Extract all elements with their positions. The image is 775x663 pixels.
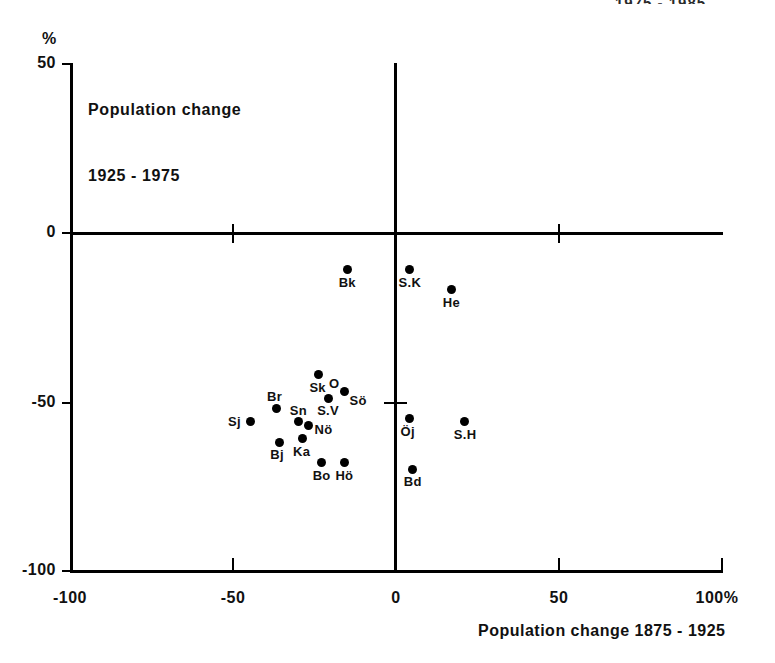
- data-point-label: Br: [267, 389, 282, 404]
- data-point-label: Bj: [270, 447, 284, 462]
- clipped-header-text: 1975 - 1985: [615, 0, 775, 4]
- data-point-marker: [460, 417, 469, 426]
- x-tick-50: [558, 558, 560, 571]
- x-tick-label-neg100: -100: [25, 589, 115, 607]
- scatter-plot-figure: 1975 - 1985 % 50 0 -50 -100 -100 -50 0 5…: [0, 0, 775, 663]
- data-point-marker: [340, 387, 349, 396]
- data-point-marker: [246, 417, 255, 426]
- data-point-label: S.K: [399, 275, 422, 290]
- data-point-marker: [408, 465, 417, 474]
- data-point-label: O: [329, 376, 339, 391]
- data-point-marker: [298, 434, 307, 443]
- data-point-label: Bd: [404, 474, 422, 489]
- y-tick-neg50-inner: [384, 402, 407, 404]
- data-point-label: Bo: [313, 468, 331, 483]
- y-tick-neg50: [62, 402, 71, 404]
- plot-title-line-2: 1925 - 1975: [88, 165, 241, 187]
- y-tick-label-0: 0: [0, 223, 56, 241]
- data-point-label: Sk: [309, 380, 326, 395]
- x-tick-label-100: 100%: [672, 589, 762, 607]
- data-point-label: Bk: [339, 275, 356, 290]
- data-point-marker: [340, 458, 349, 467]
- data-point-label: Nö: [315, 422, 333, 437]
- data-point-label: Sö: [349, 393, 366, 408]
- x-tick-label-0: 0: [351, 589, 441, 607]
- x-tick-100: [721, 558, 723, 571]
- y-axis-line: [70, 63, 73, 573]
- data-point-marker: [294, 417, 303, 426]
- data-point-marker: [324, 394, 333, 403]
- data-point-marker: [275, 438, 284, 447]
- x-tick-neg50: [232, 558, 234, 571]
- data-point-marker: [405, 265, 414, 274]
- zero-vertical-reference-line: [394, 63, 397, 573]
- data-point-label: Sj: [228, 414, 241, 429]
- y-tick-0: [62, 232, 71, 234]
- data-point-label: Ka: [293, 444, 310, 459]
- data-point-marker: [405, 414, 414, 423]
- y-tick-label-50: 50: [0, 54, 56, 72]
- data-point-label: He: [443, 295, 460, 310]
- data-point-label: Öj: [401, 424, 415, 439]
- y-tick-label-neg100: -100: [0, 561, 56, 579]
- x-tick-label-neg50: -50: [188, 589, 278, 607]
- data-point-marker: [317, 458, 326, 467]
- x-tick-label-50: 50: [514, 589, 604, 607]
- y-tick-neg100: [62, 570, 71, 572]
- y-tick-label-neg50: -50: [0, 393, 56, 411]
- data-point-marker: [272, 404, 281, 413]
- data-point-label: S.V: [317, 403, 339, 418]
- x-tick-0: [395, 558, 397, 571]
- y-tick-50: [62, 63, 71, 65]
- x-axis-title: Population change 1875 - 1925: [478, 622, 725, 640]
- plot-title: Population change 1925 - 1975: [88, 55, 241, 231]
- data-point-marker: [314, 370, 323, 379]
- plot-title-line-1: Population change: [88, 99, 241, 121]
- data-point-label: S.H: [454, 427, 477, 442]
- data-point-marker: [447, 285, 456, 294]
- data-point-label: Sn: [290, 403, 307, 418]
- x-tick-50-inner: [558, 224, 560, 243]
- data-point-marker: [343, 265, 352, 274]
- y-axis-unit-label: %: [42, 30, 56, 48]
- data-point-label: Hö: [335, 468, 353, 483]
- data-point-marker: [304, 421, 313, 430]
